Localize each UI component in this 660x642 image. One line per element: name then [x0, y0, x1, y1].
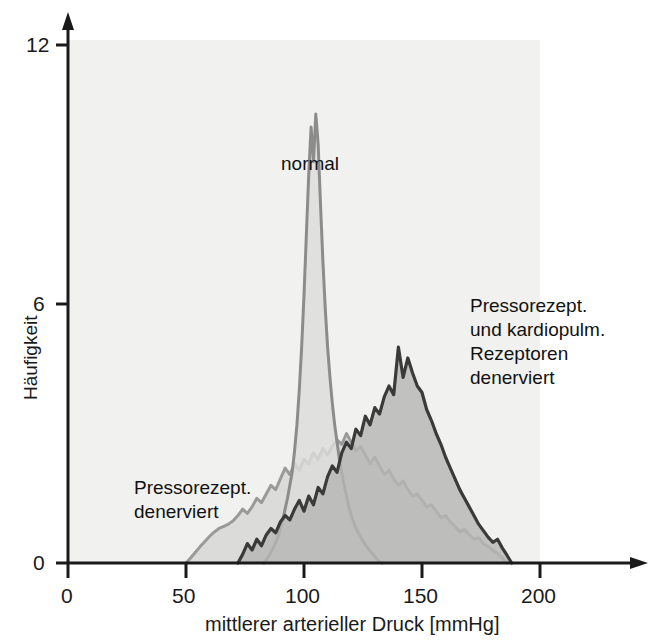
x-tick-label-100: 100 [285, 584, 320, 608]
annotation-pressorezept-kardiopulm-denerviert: Pressorezept. und kardiopulm. Rezeptoren… [470, 294, 605, 390]
annotation-pressorezept-denerviert: Pressorezept. denerviert [134, 476, 251, 524]
x-tick-label-0: 0 [61, 584, 73, 608]
y-axis-label: Häufigkeit [20, 316, 42, 401]
y-tick-label-12: 12 [26, 33, 49, 57]
y-tick-label-6: 6 [33, 292, 45, 316]
x-tick-label-200: 200 [521, 584, 556, 608]
x-axis-label: mittlerer arterieller Druck [mmHg] [205, 613, 499, 636]
y-tick-label-0: 0 [33, 551, 45, 575]
x-tick-label-50: 50 [172, 584, 195, 608]
x-axis-arrow [630, 557, 648, 569]
figure-container: 12 6 0 0 50 100 150 200 Häufigkeit mittl… [0, 0, 660, 642]
annotation-normal: normal [281, 152, 339, 176]
x-tick-label-150: 150 [403, 584, 438, 608]
y-axis-arrow [62, 12, 74, 30]
